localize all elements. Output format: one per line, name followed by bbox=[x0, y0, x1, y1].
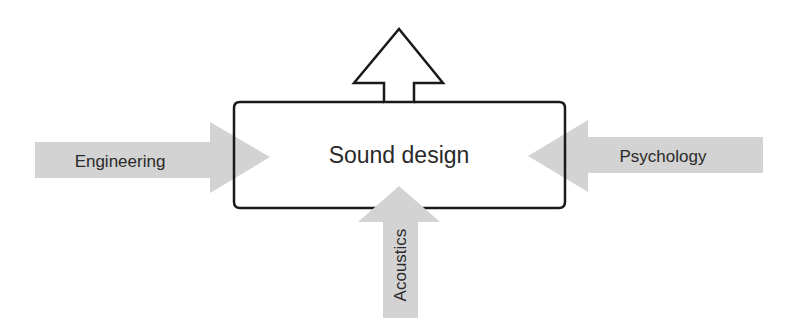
psychology-label: Psychology bbox=[620, 147, 707, 166]
output-arrow-up bbox=[354, 29, 443, 102]
engineering-label: Engineering bbox=[75, 152, 166, 171]
psychology-arrow: Psychology bbox=[528, 120, 763, 192]
acoustics-label: Acoustics bbox=[391, 229, 410, 302]
sound-design-label: Sound design bbox=[329, 142, 470, 168]
acoustics-arrow: Acoustics bbox=[358, 186, 440, 318]
diagram-canvas: Engineering Psychology Acoustics Sound d… bbox=[0, 0, 796, 333]
